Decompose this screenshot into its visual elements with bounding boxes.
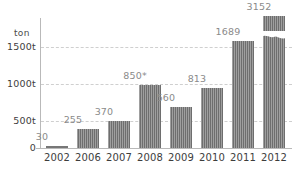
x-tick-2008: 2008 (133, 152, 167, 163)
x-axis-line (36, 148, 292, 149)
x-tick-2012: 2012 (257, 152, 291, 163)
y-tick-0-label: 0 (30, 142, 36, 153)
plot-area (40, 8, 292, 148)
value-label-2012: 3152 (239, 1, 279, 12)
value-label-2002: 30 (22, 131, 62, 142)
bar-chart: ton 1500t 1000t 500t 0 (0, 0, 297, 173)
bar-2006[interactable] (77, 129, 99, 148)
bar-2010[interactable] (201, 88, 223, 148)
bar-2007[interactable] (108, 121, 130, 148)
value-label-2007: 370 (84, 106, 124, 117)
bar-slot-2002 (42, 8, 72, 148)
x-tick-2009: 2009 (164, 152, 198, 163)
x-tick-2010: 2010 (195, 152, 229, 163)
value-label-2009: 560 (146, 92, 186, 103)
bar-slot-2006 (73, 8, 103, 148)
bar-2009[interactable] (170, 107, 192, 148)
y-tick-1000-label: 1000t (7, 78, 36, 89)
y-tick-1500: 1500t (0, 41, 36, 53)
value-label-2008: 850* (115, 70, 155, 81)
bar-2012[interactable] (263, 16, 285, 148)
value-label-2010: 813 (177, 73, 217, 84)
x-tick-2007: 2007 (102, 152, 136, 163)
bar-2011[interactable] (232, 41, 254, 148)
y-tick-1500-label: 1500t (7, 41, 36, 52)
y-axis-unit-label: ton (14, 28, 30, 38)
x-tick-2011: 2011 (226, 152, 260, 163)
bar-2002[interactable] (46, 146, 68, 148)
x-tick-2006: 2006 (71, 152, 105, 163)
y-tick-1000: 1000t (0, 78, 36, 90)
y-tick-500-label: 500t (13, 115, 36, 126)
x-tick-2002: 2002 (40, 152, 74, 163)
value-label-2011: 1689 (208, 26, 248, 37)
y-tick-0: 0 (0, 142, 36, 154)
bar-slot-2012 (259, 8, 289, 148)
y-tick-500: 500t (0, 115, 36, 127)
